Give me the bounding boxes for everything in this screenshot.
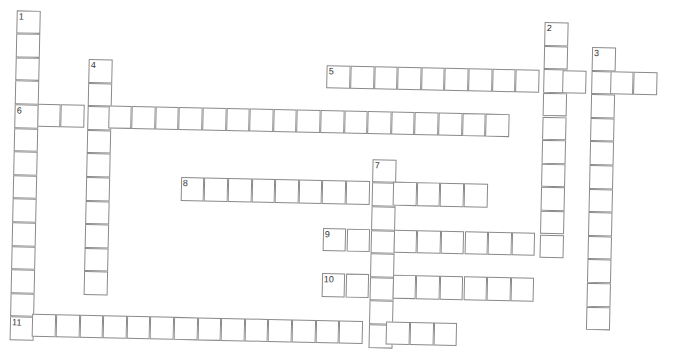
crossword-cell[interactable] [202,107,226,131]
crossword-cell[interactable] [438,112,462,136]
crossword-cell[interactable] [315,320,339,344]
crossword-cell[interactable] [371,206,395,230]
crossword-cell[interactable] [374,66,398,90]
crossword-cell[interactable] [562,70,586,94]
crossword-cell[interactable]: 4 [89,59,113,83]
crossword-cell[interactable] [244,318,268,342]
crossword-cell[interactable] [367,111,391,135]
crossword-cell[interactable] [397,67,421,91]
crossword-cell[interactable] [344,110,368,134]
crossword-cell[interactable] [544,46,568,70]
crossword-cell[interactable] [350,66,374,90]
crossword-cell[interactable] [346,181,370,205]
crossword-cell[interactable] [108,105,132,129]
crossword-cell[interactable] [15,81,39,105]
crossword-cell[interactable] [103,315,127,339]
crossword-cell[interactable] [10,293,34,317]
crossword-cell[interactable]: 3 [592,47,616,71]
crossword-cell[interactable] [515,69,539,93]
crossword-cell[interactable] [221,318,245,342]
crossword-cell[interactable] [415,112,439,136]
crossword-cell[interactable] [393,230,417,254]
crossword-cell[interactable]: 8 [180,177,204,201]
crossword-cell[interactable] [298,180,322,204]
crossword-cell[interactable] [179,107,203,131]
crossword-cell[interactable] [440,183,464,207]
crossword-cell[interactable] [417,230,441,254]
crossword-cell[interactable] [588,212,612,236]
crossword-cell[interactable] [371,230,395,254]
crossword-cell[interactable]: 2 [545,22,569,46]
crossword-cell[interactable] [587,236,611,260]
crossword-cell[interactable] [542,140,566,164]
crossword-cell[interactable]: 9 [322,228,346,252]
crossword-cell[interactable] [370,277,394,301]
crossword-cell[interactable] [586,306,610,330]
crossword-cell[interactable] [540,211,564,235]
crossword-cell[interactable] [155,106,179,130]
crossword-cell[interactable] [61,104,85,128]
crossword-cell[interactable] [542,116,566,140]
crossword-cell[interactable] [541,164,565,188]
crossword-cell[interactable] [591,94,615,118]
crossword-cell[interactable] [174,317,198,341]
crossword-cell[interactable] [416,275,440,299]
crossword-cell[interactable] [610,71,634,95]
crossword-cell[interactable] [488,232,512,256]
crossword-cell[interactable] [11,246,35,270]
crossword-cell[interactable] [463,276,487,300]
crossword-cell[interactable] [589,188,613,212]
crossword-cell[interactable] [16,34,40,58]
crossword-cell[interactable] [421,67,445,91]
crossword-cell[interactable] [633,72,657,96]
crossword-cell[interactable] [445,68,469,92]
crossword-cell[interactable] [392,275,416,299]
crossword-cell[interactable] [586,283,610,307]
crossword-cell[interactable] [541,187,565,211]
crossword-cell[interactable] [85,201,109,225]
crossword-cell[interactable] [150,316,174,340]
crossword-cell[interactable] [511,232,535,256]
crossword-cell[interactable] [131,106,155,130]
crossword-cell[interactable] [510,277,534,301]
crossword-cell[interactable]: 10 [321,273,345,297]
crossword-cell[interactable] [416,182,440,206]
crossword-cell[interactable] [292,319,316,343]
crossword-cell[interactable] [79,315,103,339]
crossword-cell[interactable] [589,165,613,189]
crossword-cell[interactable] [14,128,38,152]
crossword-cell[interactable] [492,69,516,93]
crossword-cell[interactable] [468,68,492,92]
crossword-cell[interactable] [485,113,509,137]
crossword-cell[interactable] [590,141,614,165]
crossword-cell[interactable] [393,182,417,206]
crossword-cell[interactable] [487,277,511,301]
crossword-cell[interactable] [464,231,488,255]
crossword-cell[interactable] [12,199,36,223]
crossword-cell[interactable] [587,259,611,283]
crossword-cell[interactable]: 5 [327,65,351,89]
crossword-cell[interactable] [88,83,112,107]
crossword-cell[interactable] [370,253,394,277]
crossword-cell[interactable] [322,180,346,204]
crossword-cell[interactable] [433,322,457,346]
crossword-cell[interactable]: 6 [14,104,38,128]
crossword-cell[interactable] [464,183,488,207]
crossword-cell[interactable]: 7 [372,159,396,183]
crossword-cell[interactable] [275,179,299,203]
crossword-cell[interactable] [410,322,434,346]
crossword-cell[interactable] [439,276,463,300]
crossword-cell[interactable] [251,179,275,203]
crossword-cell[interactable] [197,317,221,341]
crossword-cell[interactable] [391,111,415,135]
crossword-cell[interactable] [13,175,37,199]
crossword-cell[interactable] [273,109,297,133]
crossword-cell[interactable] [13,152,37,176]
crossword-cell[interactable] [346,229,370,253]
crossword-cell[interactable] [15,57,39,81]
crossword-cell[interactable] [126,316,150,340]
crossword-cell[interactable] [84,271,108,295]
crossword-cell[interactable]: 1 [16,10,40,34]
crossword-cell[interactable] [345,274,369,298]
crossword-cell[interactable] [56,314,80,338]
